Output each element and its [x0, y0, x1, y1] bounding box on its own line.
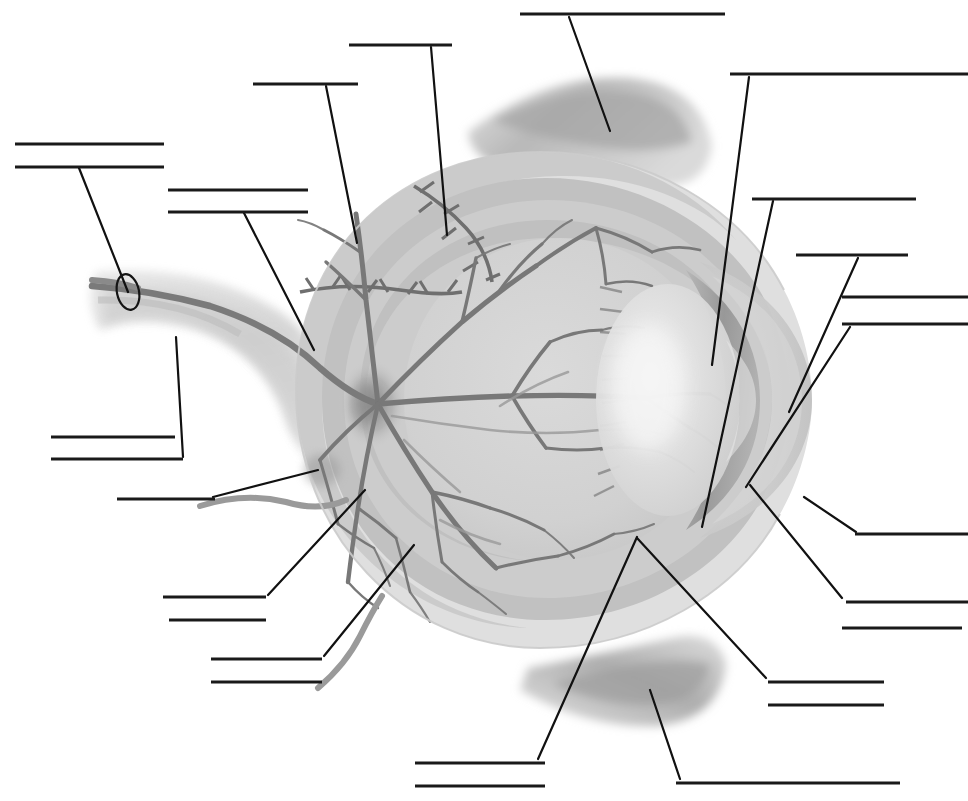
answer-field-19[interactable]: [51, 441, 183, 459]
leader-line: [569, 17, 610, 131]
answer-field-26[interactable]: [415, 768, 545, 786]
answer-field-22[interactable]: [169, 602, 266, 620]
answer-field-23[interactable]: [211, 641, 322, 659]
answer-field-21[interactable]: [163, 579, 266, 597]
leader-line: [431, 47, 447, 235]
answer-field-20[interactable]: [117, 481, 215, 499]
leader-line: [326, 86, 357, 243]
leader-line: [637, 538, 766, 678]
leader-line: [176, 337, 183, 457]
answer-field-6[interactable]: [349, 27, 452, 45]
leader-line: [268, 490, 365, 595]
leader-line: [804, 497, 856, 532]
answer-field-4[interactable]: [168, 194, 308, 212]
leader-line: [324, 545, 414, 656]
answer-field-16[interactable]: [768, 664, 884, 682]
answer-field-24[interactable]: [211, 664, 322, 682]
answer-field-8[interactable]: [730, 56, 968, 74]
answer-field-25[interactable]: [415, 745, 545, 763]
answer-field-9[interactable]: [752, 181, 916, 199]
answer-field-7[interactable]: [520, 0, 725, 14]
answer-field-1[interactable]: [15, 126, 164, 144]
answer-field-18[interactable]: [51, 419, 175, 437]
leader-line: [750, 485, 842, 598]
answer-field-5[interactable]: [253, 66, 358, 84]
leader-line: [79, 168, 128, 292]
answer-field-11[interactable]: [842, 279, 968, 297]
answer-field-13[interactable]: [855, 516, 968, 534]
answer-field-10[interactable]: [796, 237, 908, 255]
leader-line: [712, 77, 749, 365]
leader-line: [538, 537, 637, 759]
leader-line: [213, 470, 318, 497]
leader-line-group: [79, 17, 858, 779]
answer-field-14[interactable]: [846, 584, 968, 602]
worksheet-canvas: [0, 0, 968, 801]
answer-field-17[interactable]: [768, 687, 884, 705]
answer-field-12[interactable]: [842, 306, 968, 324]
answer-field-2[interactable]: [15, 149, 164, 167]
answer-field-27[interactable]: [676, 765, 900, 783]
answer-field-15[interactable]: [842, 610, 962, 628]
leader-line: [746, 327, 850, 487]
leader-line: [244, 213, 314, 350]
answer-field-3[interactable]: [168, 172, 308, 190]
